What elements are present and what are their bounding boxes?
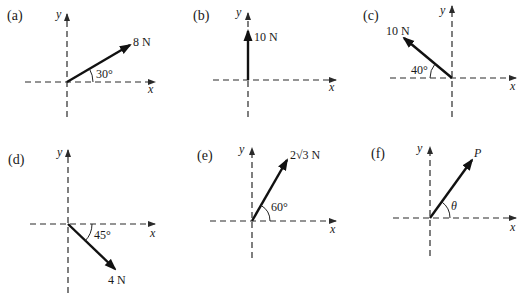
- panel-label-e: (e): [197, 148, 213, 164]
- panel-e: (e) y x 2√3 N 60°: [197, 142, 336, 258]
- y-axis-label-e: y: [238, 142, 245, 156]
- panel-label-b: (b): [193, 8, 210, 24]
- x-axis-label-c: x: [509, 79, 516, 93]
- force-label-c: 10 N: [386, 24, 410, 38]
- panel-b: (b) y x 10 N: [193, 5, 336, 117]
- angle-arc-a: [90, 69, 94, 82]
- y-axis-label-c: y: [439, 3, 446, 17]
- x-axis-label-a: x: [147, 82, 154, 96]
- panel-a: (a) y x 8 N 30°: [7, 7, 155, 117]
- force-label-b: 10 N: [254, 30, 278, 44]
- y-axis-label-f: y: [416, 141, 423, 155]
- force-label-f: P: [473, 146, 482, 160]
- y-axis-label-a: y: [55, 7, 62, 21]
- panel-label-c: (c): [363, 8, 379, 24]
- y-axis-label-b: y: [235, 5, 242, 19]
- angle-arc-e: [261, 205, 270, 221]
- force-vector-figure: (a) y x 8 N 30° (b) y x 10 N (c) y x 10 …: [0, 0, 523, 295]
- force-label-e: 2√3 N: [290, 148, 321, 162]
- angle-label-a: 30°: [96, 67, 113, 81]
- panel-f: (f) y x P θ: [371, 141, 516, 256]
- panel-d: (d) y x 4 N 45°: [8, 145, 156, 293]
- angle-arc-d: [85, 224, 92, 241]
- x-axis-label-d: x: [149, 226, 156, 240]
- y-axis-label-d: y: [56, 145, 63, 159]
- angle-label-f: θ: [451, 199, 457, 213]
- angle-arc-c: [430, 64, 435, 78]
- x-axis-label-b: x: [328, 80, 335, 94]
- angle-label-e: 60°: [271, 200, 288, 214]
- x-axis-label-f: x: [509, 220, 516, 234]
- force-label-a: 8 N: [133, 35, 151, 49]
- angle-label-d: 45°: [94, 228, 111, 242]
- force-label-d: 4 N: [108, 273, 126, 287]
- panel-c: (c) y x 10 N 40°: [363, 3, 516, 117]
- panel-label-f: (f): [371, 146, 385, 162]
- angle-arc-f: [442, 202, 450, 218]
- panel-label-a: (a): [7, 8, 23, 24]
- x-axis-label-e: x: [329, 222, 336, 236]
- angle-label-c: 40°: [411, 63, 428, 77]
- panel-label-d: (d): [8, 152, 25, 168]
